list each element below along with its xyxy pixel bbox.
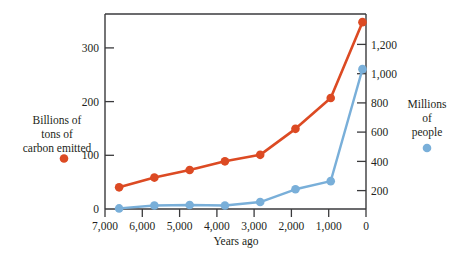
population-legend-dot-icon	[423, 144, 432, 153]
data-point-marker	[256, 151, 265, 160]
data-point-marker	[326, 94, 335, 103]
legend-right-line3: people	[412, 126, 443, 139]
y-left-tick-0: 0	[93, 203, 99, 215]
data-point-marker	[185, 201, 194, 210]
legend-left-line3: carbon emitted	[23, 142, 92, 154]
line-chart: 300 200 100 0 1,200 1,000 800 600 400 20…	[0, 0, 461, 255]
data-point-marker	[150, 173, 159, 182]
y-right-tick-800: 800	[371, 97, 389, 109]
x-tick-7000: 7,000	[92, 220, 118, 233]
data-point-marker	[185, 166, 194, 175]
y-right-tick-400: 400	[371, 156, 389, 168]
data-point-marker	[221, 157, 230, 166]
x-tick-3000: 3,000	[241, 220, 267, 233]
data-point-marker	[358, 65, 367, 74]
x-axis-title: Years ago	[213, 235, 258, 248]
x-tick-6000: 6,000	[129, 220, 155, 233]
legend-left-line2: tons of	[41, 128, 73, 140]
y-left-tick-200: 200	[82, 96, 100, 108]
data-point-marker	[115, 183, 124, 192]
data-point-marker	[291, 185, 300, 194]
y-right-tick-1000: 1,000	[371, 68, 397, 81]
x-tick-0: 0	[363, 220, 369, 232]
data-point-marker	[256, 198, 265, 207]
y-right-tick-600: 600	[371, 126, 389, 138]
y-right-tick-200: 200	[371, 185, 389, 197]
x-tick-5000: 5,000	[167, 220, 193, 233]
data-point-marker	[326, 177, 335, 186]
legend-left-line1: Billions of	[33, 114, 82, 126]
data-point-marker	[291, 125, 300, 134]
x-tick-2000: 2,000	[278, 220, 304, 233]
carbon-legend-dot-icon	[60, 154, 69, 163]
y-right-tick-1200: 1,200	[371, 39, 397, 52]
y-left-tick-300: 300	[82, 42, 100, 54]
data-point-marker	[115, 204, 124, 213]
legend-right-line1: Millions	[408, 98, 448, 110]
x-tick-4000: 4,000	[204, 220, 230, 233]
data-point-marker	[150, 201, 159, 210]
data-point-marker	[221, 201, 230, 210]
data-point-marker	[358, 18, 367, 27]
x-tick-1000: 1,000	[316, 220, 342, 233]
legend-right-line2: of	[422, 112, 432, 124]
chart-container: 300 200 100 0 1,200 1,000 800 600 400 20…	[0, 0, 461, 255]
